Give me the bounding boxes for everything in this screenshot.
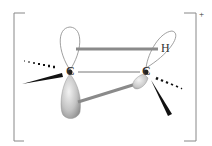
- lower-bridging-bond: [78, 84, 136, 102]
- atom-label-h: H: [161, 41, 170, 56]
- atom-label-c-right: C: [142, 64, 151, 79]
- structure-canvas: [0, 0, 212, 146]
- atom-label-c-left: C: [66, 64, 75, 79]
- right-hashed-wedge: [156, 78, 182, 89]
- right-bracket: [184, 13, 196, 141]
- charge-label: +: [199, 9, 204, 19]
- lower-p-orbital-lobe: [61, 74, 80, 119]
- left-hashed-wedge: [24, 61, 55, 67]
- left-bracket: [14, 13, 25, 141]
- left-solid-wedge: [22, 73, 63, 84]
- right-solid-wedge: [151, 80, 172, 116]
